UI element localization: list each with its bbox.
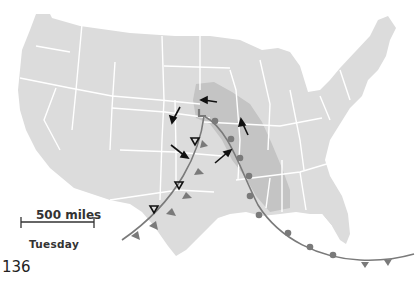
- day-label: Tuesday: [29, 238, 79, 250]
- scale-label: 500 miles: [36, 208, 101, 222]
- page-number: 136: [2, 258, 31, 276]
